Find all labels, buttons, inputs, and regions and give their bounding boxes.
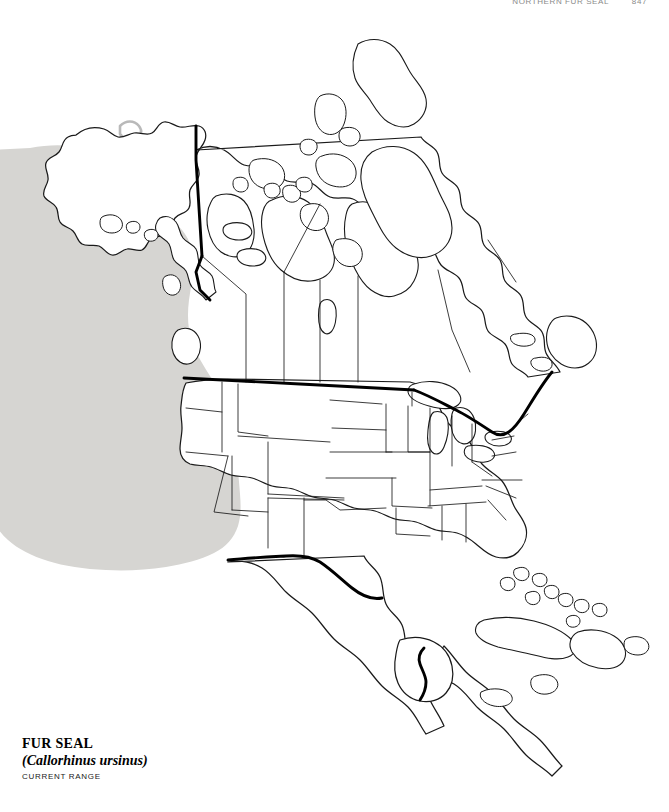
- anticosti-island: [510, 333, 535, 346]
- lake-winnipeg: [319, 299, 337, 333]
- bahamas-islet-3: [544, 585, 559, 598]
- distribution-map: .coast{fill:#ffffff;stroke:#1a1a1a;strok…: [0, 0, 669, 812]
- queen-charlotte-islands: [163, 275, 181, 295]
- arctic-islet-d: [233, 177, 248, 192]
- jamaica: [531, 675, 558, 695]
- vancouver-island: [172, 328, 201, 364]
- map-svg: .coast{fill:#ffffff;stroke:#1a1a1a;strok…: [0, 0, 669, 812]
- aleutian-islet-2: [144, 229, 158, 241]
- ellesmere-island: [353, 40, 426, 127]
- book-page: NORTHERN FUR SEAL 847 .coast{fill:#fffff…: [0, 0, 669, 812]
- great-slave-lake: [237, 249, 266, 266]
- arctic-islet-b: [296, 177, 312, 192]
- bahamas-islet-8: [500, 577, 515, 590]
- cuba: [475, 617, 575, 658]
- lesser-antilles-islet: [566, 615, 580, 627]
- map-caption: FUR SEAL (Callorhinus ursinus) CURRENT R…: [22, 736, 342, 783]
- arctic-islet-c: [264, 183, 280, 198]
- newfoundland: [547, 316, 597, 368]
- species-scientific-name: (Callorhinus ursinus): [22, 752, 342, 769]
- range-legend-label: CURRENT RANGE: [22, 770, 342, 783]
- bahamas-islet-2: [532, 573, 547, 586]
- bahamas-islet-4: [558, 593, 573, 606]
- arctic-islet-f: [300, 139, 317, 155]
- aleutian-islet-1: [126, 221, 140, 233]
- bahamas-islet-6: [592, 603, 607, 616]
- puerto-rico: [624, 637, 649, 655]
- species-common-name: FUR SEAL: [22, 736, 342, 752]
- arctic-islet-e: [339, 127, 360, 146]
- kodiak-island: [100, 215, 122, 233]
- bahamas-islet-1: [514, 567, 529, 580]
- axel-heiberg-island: [315, 94, 346, 135]
- state-border-md-pa: [492, 452, 516, 456]
- great-bear-lake: [223, 223, 252, 240]
- hispaniola: [570, 630, 626, 669]
- bahamas-islet-7: [525, 591, 540, 604]
- bahamas-islet-5: [574, 599, 589, 612]
